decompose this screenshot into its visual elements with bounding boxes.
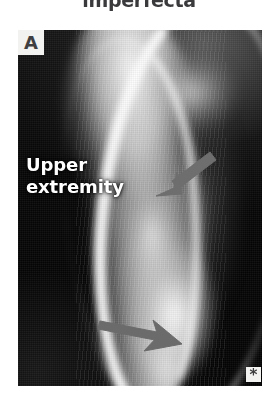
asterisk-marker: *: [246, 367, 261, 382]
lower-arrow-icon: [92, 298, 208, 360]
xray-panel-a: A Upper extremity *: [18, 30, 262, 386]
figure-heading: imperfecta: [0, 0, 278, 13]
panel-label-a: A: [18, 30, 44, 55]
annotation-label-upper-extremity: Upper extremity: [26, 154, 124, 198]
upper-arrow-icon: [144, 148, 218, 208]
